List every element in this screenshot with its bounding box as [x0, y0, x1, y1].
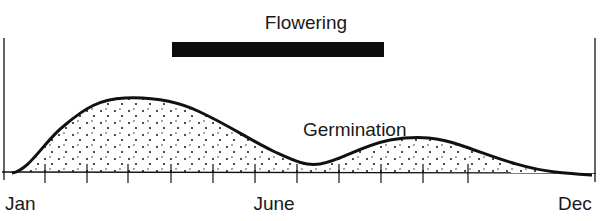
- flowering-bar: [172, 42, 384, 57]
- x-tick-label-jan: Jan: [5, 194, 36, 213]
- germination-flowering-chart: [0, 0, 607, 221]
- x-tick-label-june: June: [253, 194, 294, 213]
- flowering-label: Flowering: [265, 13, 347, 32]
- x-tick-label-dec: Dec: [558, 194, 592, 213]
- germination-label: Germination: [303, 120, 407, 139]
